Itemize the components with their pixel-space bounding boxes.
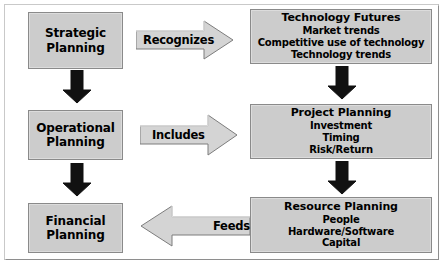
node-detail-line: Risk/Return (309, 144, 373, 156)
down-arrow-icon-strategic-to-operational (62, 70, 92, 104)
node-operational-planning[interactable]: Operational Planning (28, 110, 123, 160)
node-detail-line: Market trends (302, 25, 379, 37)
connector-label-includes: Includes (140, 114, 250, 156)
node-detail-line: Timing (322, 132, 359, 144)
node-detail-line: Capital (322, 237, 360, 249)
down-arrow-icon-operational-to-financial (62, 163, 92, 197)
down-arrow-icon-project-to-resource (327, 161, 357, 195)
node-detail-line: People (322, 214, 359, 226)
node-detail-line: Hardware/Software (288, 226, 394, 238)
node-detail-line: Competitive use of technology (258, 37, 425, 49)
diagram-canvas: Strategic Planning Operational Planning … (0, 0, 445, 266)
node-title-line2: Planning (46, 228, 105, 242)
block-arrow-right-includes[interactable]: Includes (140, 114, 238, 156)
node-strategic-planning[interactable]: Strategic Planning (28, 12, 123, 69)
connector-label-recognizes: Recognizes (136, 20, 241, 60)
node-detail-line: Technology trends (291, 49, 391, 61)
node-title-line2: Planning (46, 41, 105, 55)
node-title-line1: Operational (36, 121, 115, 135)
node-title-line1: Strategic (45, 26, 106, 40)
node-title-line2: Planning (46, 135, 105, 149)
down-arrow-icon-technology-to-project (327, 66, 357, 100)
node-project-planning[interactable]: Project Planning Investment Timing Risk/… (250, 104, 432, 159)
node-financial-planning[interactable]: Financial Planning (28, 203, 123, 253)
node-technology-futures[interactable]: Technology Futures Market trends Competi… (250, 9, 432, 64)
node-title-line1: Financial (45, 214, 105, 228)
connector-label-feeds: Feeds (140, 205, 268, 247)
node-title: Resource Planning (284, 201, 398, 214)
block-arrow-left-feeds[interactable]: Feeds (140, 205, 250, 247)
node-title: Project Planning (291, 107, 392, 120)
node-detail-line: Investment (310, 120, 372, 132)
node-resource-planning[interactable]: Resource Planning People Hardware/Softwa… (250, 197, 432, 253)
node-title: Technology Futures (282, 12, 401, 25)
block-arrow-right-recognizes[interactable]: Recognizes (136, 20, 234, 60)
